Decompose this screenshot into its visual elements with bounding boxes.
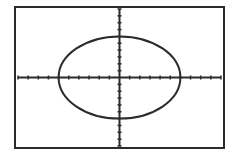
calculator-graph-screen (0, 0, 233, 154)
